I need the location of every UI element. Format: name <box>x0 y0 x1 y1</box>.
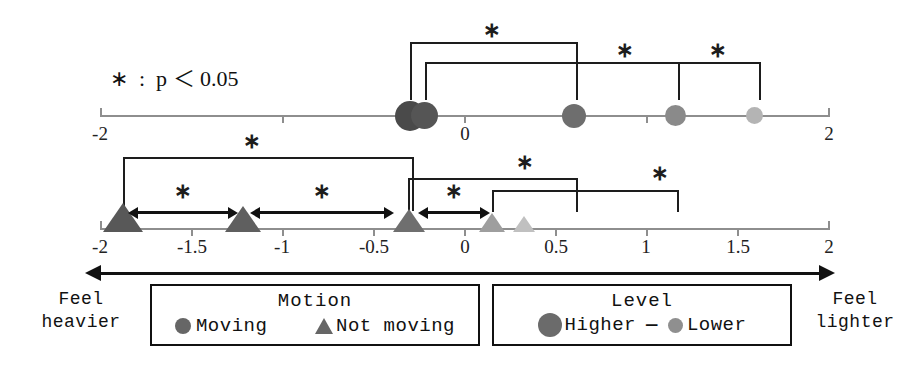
arrow-head-right <box>819 265 835 281</box>
legend-motion-items: Moving Not moving <box>152 315 478 337</box>
axis-moving-tick <box>282 116 284 123</box>
significance-star-c2: ∗ <box>505 152 545 173</box>
significance-star-a2: ∗ <box>302 181 342 202</box>
axis-notmoving-tick <box>282 229 284 236</box>
axis-moving-right-cap <box>828 108 830 117</box>
left-end-label: Feel heavier <box>22 288 140 333</box>
axis-moving-tick <box>646 116 648 123</box>
significance-arrow-a1 <box>128 205 238 219</box>
significance-star-t3: ∗ <box>698 40 738 61</box>
significance-star-c1: ∗ <box>232 131 272 152</box>
axis-notmoving-right-cap <box>828 221 830 230</box>
significance-bracket-t2 <box>425 62 680 100</box>
axis-moving-tick-label: -2 <box>82 124 118 143</box>
figure-canvas: ∗ : p ＜ 0.05 -2 0 2 ∗ ∗ ∗ ∗ ∗ ∗ -2 -1.5 <box>0 0 920 385</box>
axis-notmoving-tick-label: -1 <box>264 237 300 256</box>
axis-notmoving-tick-label: -2 <box>82 237 118 256</box>
significance-star-a3: ∗ <box>434 181 474 202</box>
data-point-notmoving-level5 <box>513 216 535 232</box>
right-end-label: Feel lighter <box>800 288 910 333</box>
data-point-moving-level4 <box>665 105 686 126</box>
arrow-head-left <box>418 207 428 219</box>
axis-notmoving-tick <box>191 229 193 236</box>
arrow-head-right <box>480 207 490 219</box>
legend-level-item1: Higher <box>565 314 636 336</box>
p-value-note: ∗ : p ＜ 0.05 <box>110 60 239 92</box>
significance-star-a1: ∗ <box>163 181 203 202</box>
legend-circle-icon <box>175 318 191 334</box>
significance-star-c3: ∗ <box>640 163 680 184</box>
axis-moving-tick-label: 0 <box>447 124 483 143</box>
arrow-head-left <box>128 207 138 219</box>
legend-level-items: Higher — Lower <box>494 313 790 337</box>
right-end-label-line2: lighter <box>800 311 910 334</box>
significance-star-t1: ∗ <box>472 20 512 41</box>
significance-arrow-a3 <box>418 205 490 219</box>
arrow-shaft <box>257 211 387 214</box>
legend-level: Level Higher — Lower <box>492 284 792 346</box>
axis-moving-tick-label: 2 <box>811 124 847 143</box>
significance-bracket-t3 <box>678 62 761 100</box>
significance-bracket-c3 <box>492 190 679 212</box>
legend-motion: Motion Moving Not moving <box>150 284 480 346</box>
legend-motion-item1: Moving <box>196 315 267 337</box>
axis-moving-left-cap <box>100 108 102 117</box>
arrow-head-right <box>228 207 238 219</box>
legend-level-item2: Lower <box>687 314 747 336</box>
axis-notmoving-tick <box>464 229 466 236</box>
data-point-moving-level2 <box>411 102 438 129</box>
data-point-moving-level3 <box>562 104 586 128</box>
data-point-moving-level5 <box>746 107 763 124</box>
left-end-label-line1: Feel <box>22 288 140 311</box>
legend-large-circle-icon <box>538 313 562 337</box>
legend-small-circle-icon <box>668 318 683 333</box>
arrow-head-left <box>250 207 260 219</box>
significance-star-t2: ∗ <box>605 40 645 61</box>
legend-triangle-icon <box>315 318 333 334</box>
axis-notmoving-tick <box>555 229 557 236</box>
axis-notmoving-tick-label: -1.5 <box>170 237 214 256</box>
left-end-label-line2: heavier <box>22 311 140 334</box>
legend-level-title: Level <box>494 290 790 312</box>
axis-notmoving-tick-label: -0.5 <box>352 237 396 256</box>
arrow-head-left <box>85 265 101 281</box>
axis-notmoving-left-cap <box>100 221 102 230</box>
heavier-lighter-arrow <box>85 264 835 282</box>
legend-motion-item2: Not moving <box>336 315 455 337</box>
arrow-shaft <box>425 211 483 214</box>
axis-notmoving-tick-label: 2 <box>811 237 847 256</box>
axis-notmoving-tick <box>646 229 648 236</box>
arrow-head-right <box>384 207 394 219</box>
axis-notmoving-tick <box>737 229 739 236</box>
arrow-shaft <box>99 272 821 275</box>
axis-notmoving-tick-label: 1.5 <box>716 237 760 256</box>
significance-arrow-a2 <box>250 205 394 219</box>
axis-notmoving-tick-label: 0.5 <box>534 237 578 256</box>
arrow-shaft <box>135 211 231 214</box>
axis-notmoving-tick <box>373 229 375 236</box>
axis-notmoving-tick-label: 1 <box>628 237 664 256</box>
axis-moving-tick <box>464 116 466 123</box>
legend-motion-title: Motion <box>152 290 478 312</box>
legend-spacer <box>267 315 315 337</box>
legend-level-connector: — <box>646 314 658 336</box>
axis-notmoving-tick-label: 0 <box>447 237 483 256</box>
right-end-label-line1: Feel <box>800 288 910 311</box>
